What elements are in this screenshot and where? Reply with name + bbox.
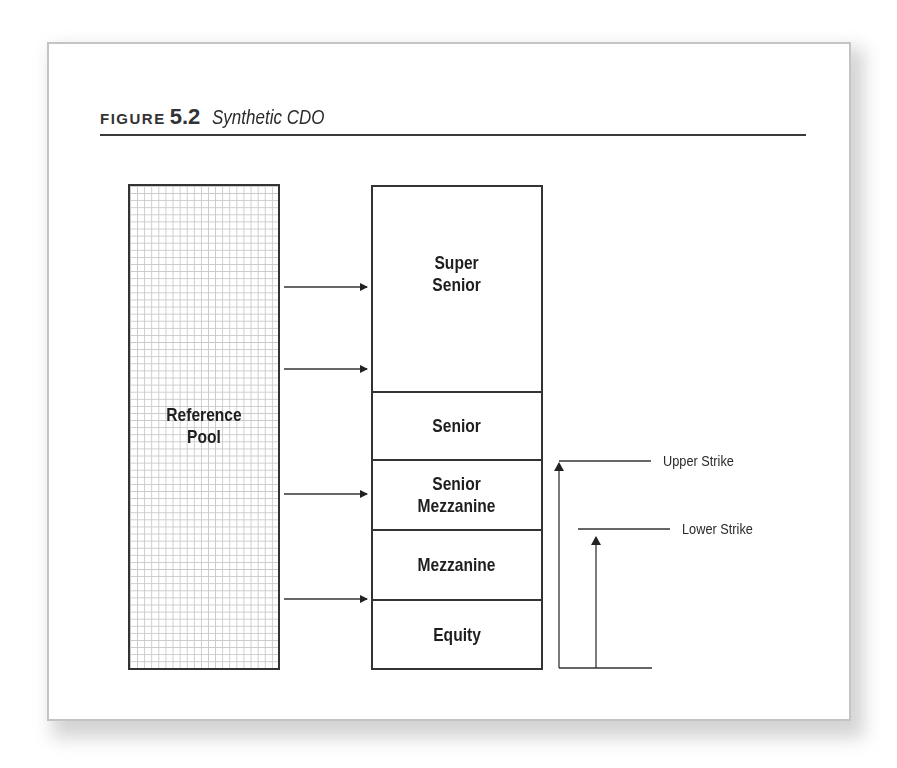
pool-to-tranche-arrows [284,287,367,599]
strike-markers [554,461,670,668]
connector-lines [0,0,897,768]
upper-strike-label: Upper Strike [663,452,734,469]
lower-strike-label: Lower Strike [682,520,753,537]
